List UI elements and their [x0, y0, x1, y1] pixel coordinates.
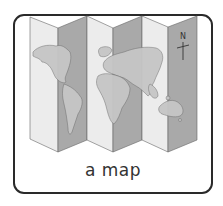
map-panel-2 [58, 16, 87, 152]
island-shape [179, 119, 182, 122]
map-panel-1 [30, 17, 58, 152]
compass-label: N [180, 32, 186, 41]
card-caption: a map [13, 160, 213, 180]
island-shape [166, 96, 170, 100]
